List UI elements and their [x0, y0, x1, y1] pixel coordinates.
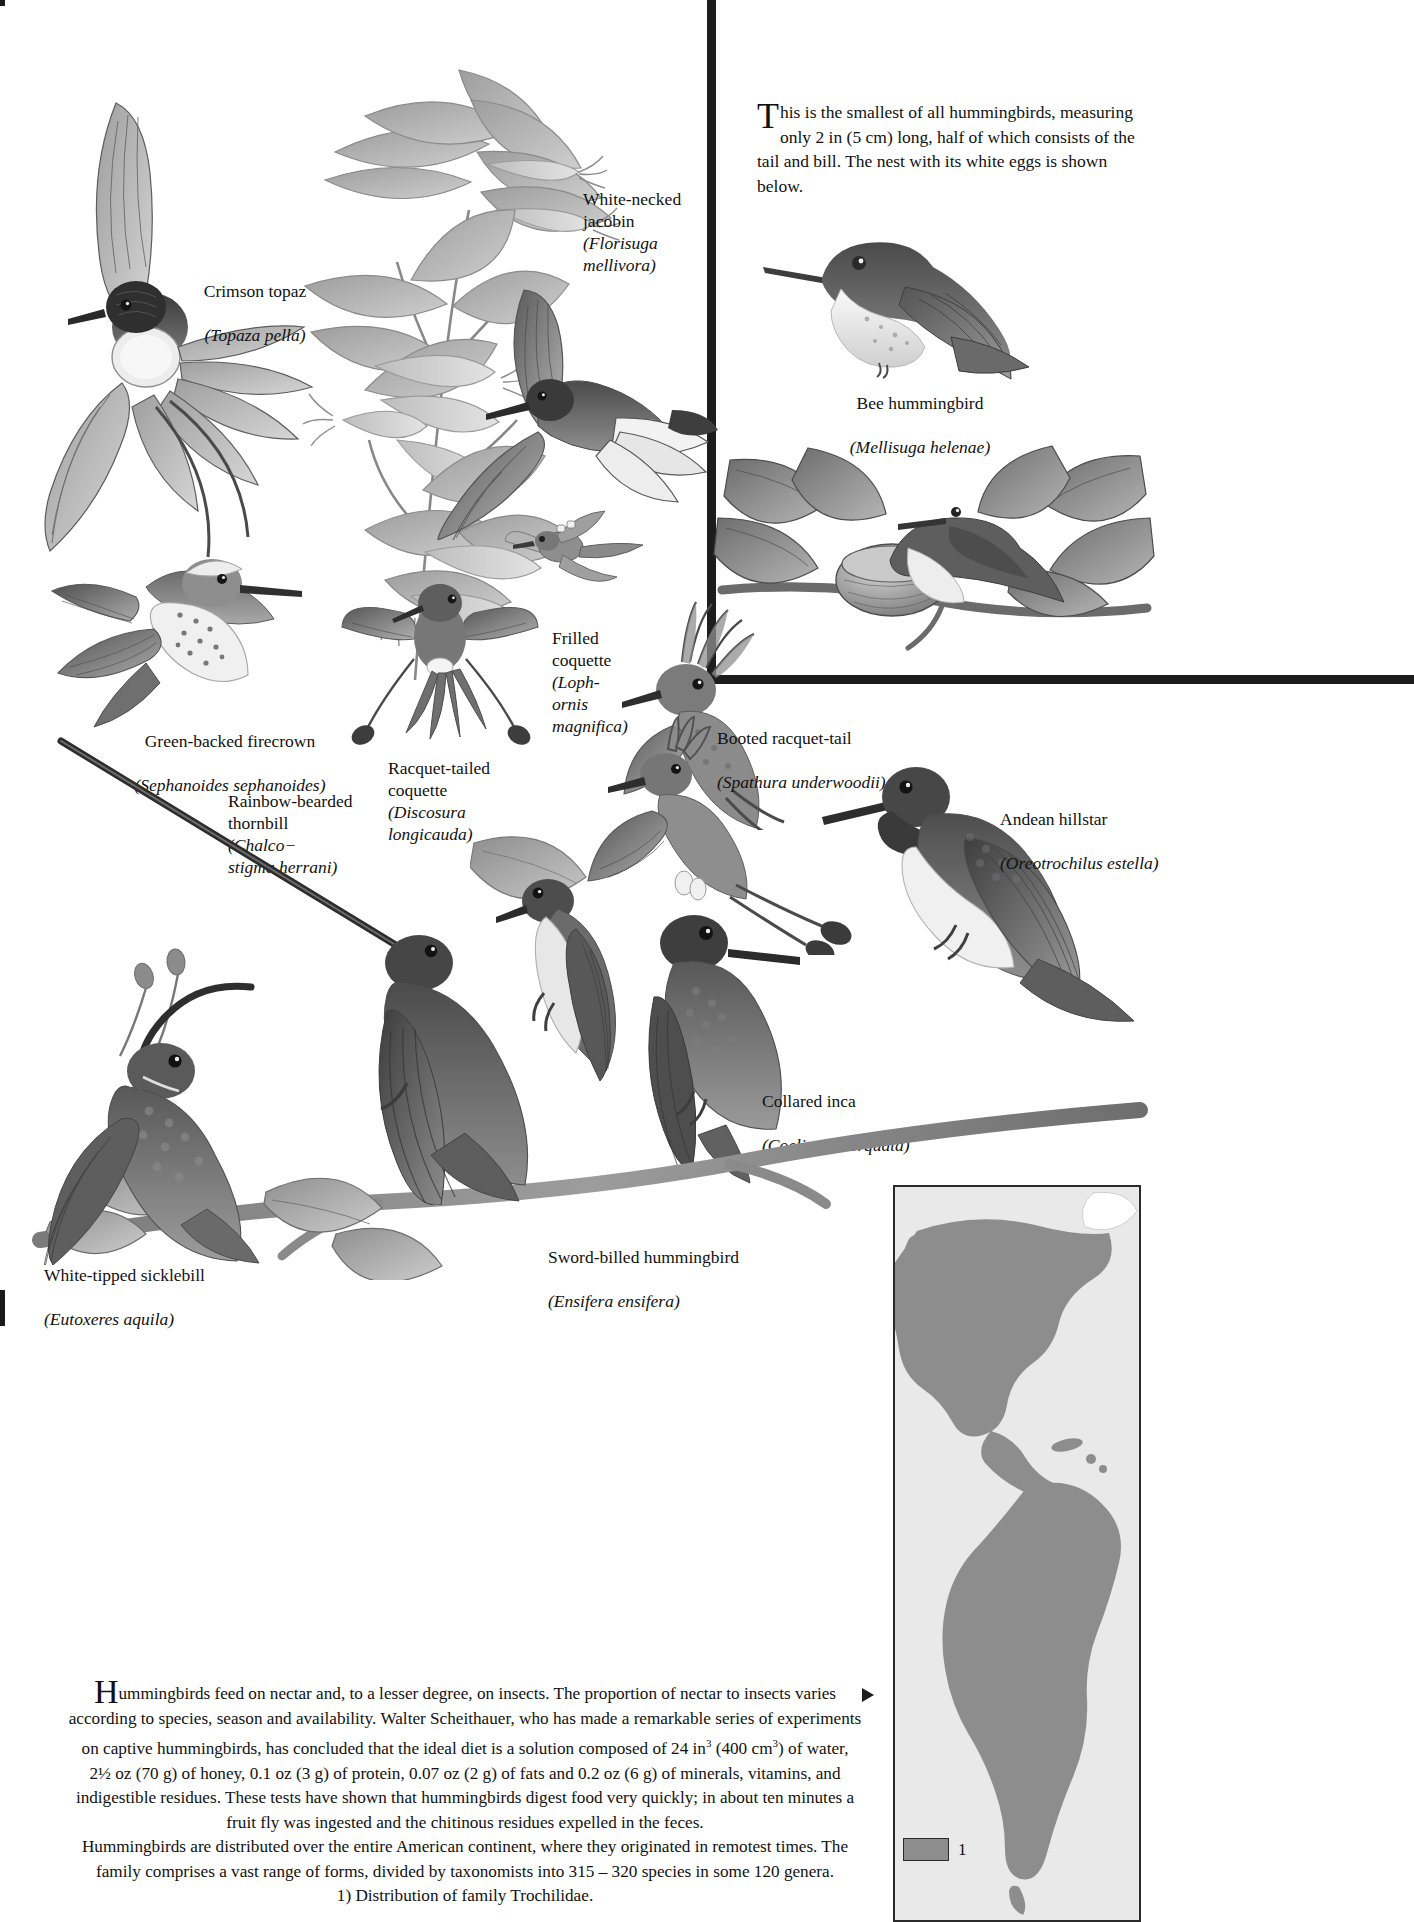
label-andean-hillstar-latin: (Oreotrochilus estella): [1000, 853, 1159, 873]
map-legend-swatch: [903, 1838, 949, 1861]
body-line-4: 2½ oz (70 g) of honey, 0.1 oz (3 g) of p…: [65, 1762, 865, 1787]
body-line-3c: ) of water,: [778, 1739, 848, 1758]
inset-intro-paragraph: This is the smallest of all hummingbirds…: [757, 100, 1147, 198]
sword-billed-hummingbird-illustration: [55, 735, 615, 1205]
label-crimson-topaz: Crimson topaz (Topaza pella): [150, 258, 360, 346]
body-line-5: indigestible residues. These tests have …: [65, 1786, 865, 1811]
label-andean-hillstar: Andean hillstar (Oreotrochilus estella): [1000, 786, 1260, 874]
body-paragraph-1: Hummingbirds feed on nectar and, to a le…: [65, 1682, 865, 1909]
body-line-8: family comprises a vast range of forms, …: [65, 1860, 865, 1885]
label-white-necked-jacobin-common: White-necked jacobin: [583, 189, 681, 231]
body-line-2: according to species, season and availab…: [65, 1707, 865, 1732]
triangle-pointer-icon: [862, 1688, 874, 1702]
body-line-3: on captive hummingbirds, has concluded t…: [65, 1731, 865, 1761]
label-sword-billed-hummingbird: Sword-billed hummingbird (Ensifera ensif…: [548, 1224, 908, 1312]
label-bee-hummingbird-common: Bee hummingbird: [857, 393, 984, 413]
intro-body: his is the smallest of all hummingbirds,…: [757, 102, 1135, 196]
label-white-necked-jacobin: White-necked jacobin (Florisuga mellivor…: [583, 166, 773, 276]
left-edge-rule-mid: [0, 1290, 5, 1326]
label-crimson-topaz-common: Crimson topaz: [204, 281, 307, 301]
encyclopedia-page: This is the smallest of all hummingbirds…: [0, 0, 1414, 1922]
body-line-1-text: ummingbirds feed on nectar and, to a les…: [119, 1684, 837, 1703]
label-white-tipped-sicklebill-latin: (Eutoxeres aquila): [44, 1309, 174, 1329]
label-white-necked-jacobin-latin: (Florisuga mellivora): [583, 233, 658, 275]
label-sword-billed-hummingbird-common: Sword-billed hummingbird: [548, 1247, 739, 1267]
label-crimson-topaz-latin: (Topaza pella): [205, 325, 306, 345]
distribution-map-panel: [893, 1185, 1141, 1922]
americas-distribution-map: [895, 1187, 1139, 1920]
body-line-6: fruit fly was ingested and the chitinous…: [65, 1811, 865, 1836]
white-necked-jacobin-illustration: [420, 280, 720, 540]
intro-dropcap: T: [757, 100, 780, 130]
label-sword-billed-hummingbird-latin: (Ensifera ensifera): [548, 1291, 680, 1311]
body-dropcap: H: [94, 1673, 119, 1710]
label-frilled-coquette-common: Frilled coquette: [552, 628, 611, 670]
bee-hummingbird-illustration: [755, 215, 1045, 385]
left-edge-rule-top: [0, 0, 5, 6]
body-paragraph-block: Hummingbirds feed on nectar and, to a le…: [65, 1682, 865, 1909]
body-line-3b: (400 cm: [711, 1739, 772, 1758]
body-line-3a: on captive hummingbirds, has concluded t…: [82, 1739, 706, 1758]
map-legend: 1: [903, 1838, 967, 1861]
label-white-tipped-sicklebill: White-tipped sicklebill (Eutoxeres aquil…: [44, 1242, 344, 1330]
label-andean-hillstar-common: Andean hillstar: [1000, 809, 1107, 829]
body-line-1: Hummingbirds feed on nectar and, to a le…: [65, 1682, 865, 1707]
map-legend-label: 1: [958, 1840, 967, 1860]
body-line-7: Hummingbirds are distributed over the en…: [65, 1835, 865, 1860]
body-line-9: 1) Distribution of family Trochilidae.: [65, 1884, 865, 1909]
label-white-tipped-sicklebill-common: White-tipped sicklebill: [44, 1265, 205, 1285]
